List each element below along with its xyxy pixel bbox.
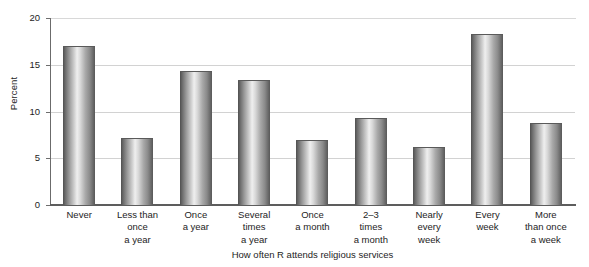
x-tick-label-line: a year [217,234,291,246]
x-tick-label-line: than once [509,221,583,233]
plot-area [50,18,575,205]
y-tick-label: 5 [18,153,40,163]
x-axis-title: How often R attends religious services [0,249,589,260]
bar[interactable] [121,138,153,205]
bar[interactable] [530,123,562,205]
bar-slot [400,18,458,205]
bar-chart: Percent 05101520 NeverLess thanoncea yea… [0,0,589,267]
bar[interactable] [180,71,212,205]
x-tick-label-line: week [392,234,466,246]
bar[interactable] [238,80,270,205]
bar-slot [167,18,225,205]
y-tick-label: 0 [18,200,40,210]
x-tick-label-line: More [509,209,583,221]
bar-slot [342,18,400,205]
bar[interactable] [413,147,445,205]
y-tick-label: 10 [18,107,40,117]
bar-slot [225,18,283,205]
x-tick-label-line: a week [509,234,583,246]
bar-slot [283,18,341,205]
bar-slot [458,18,516,205]
bars-container [50,18,575,205]
y-tick-label: 20 [18,13,40,23]
bar-slot [108,18,166,205]
bar[interactable] [296,140,328,205]
bar[interactable] [63,46,95,205]
x-tick-label-line: a year [101,234,175,246]
bar-slot [50,18,108,205]
bar[interactable] [355,118,387,205]
bar[interactable] [471,34,503,205]
y-axis-title: Percent [8,59,19,129]
bar-slot [517,18,575,205]
x-tick-label: Morethan oncea week [509,209,583,246]
y-tick-label: 15 [18,60,40,70]
